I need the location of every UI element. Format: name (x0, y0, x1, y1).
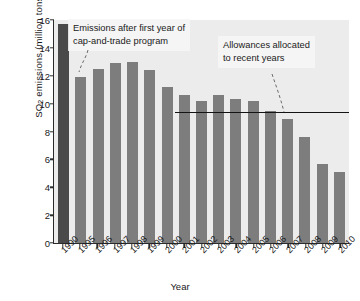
x-axis-title: Year (0, 281, 360, 292)
bar-cell-2000 (158, 20, 175, 243)
bar-2006 (265, 111, 276, 243)
y-tick-label-4: 4 (26, 182, 50, 193)
y-tick-mark-14 (50, 47, 55, 48)
y-tick-label-10: 10 (26, 98, 50, 109)
y-tick-label-14: 14 (26, 42, 50, 53)
bar-2009 (317, 164, 328, 243)
bar-cell-1998 (124, 20, 141, 243)
y-tick-mark-4 (50, 187, 55, 188)
y-tick-mark-6 (50, 159, 55, 160)
y-tick-label-0: 0 (26, 238, 50, 249)
y-tick-mark-16 (50, 19, 55, 20)
y-tick-mark-0 (50, 242, 55, 243)
bar-cell-2010 (331, 20, 348, 243)
y-tick-label-2: 2 (26, 210, 50, 221)
bar-cell-2009 (314, 20, 331, 243)
y-tick-mark-10 (50, 103, 55, 104)
bar-cell-1990 (55, 20, 72, 243)
bar-1995 (75, 77, 86, 243)
bar-1990 (58, 24, 69, 243)
bar-cell-1999 (141, 20, 158, 243)
y-tick-mark-8 (50, 131, 55, 132)
bar-2004 (230, 99, 241, 243)
so2-emissions-bar-chart: SO2 emissions (million tons) Year 024681… (0, 0, 360, 301)
y-tick-label-6: 6 (26, 154, 50, 165)
bar-2001 (179, 95, 190, 243)
bar-2003 (213, 95, 224, 243)
bar-1997 (110, 63, 121, 243)
bar-2002 (196, 101, 207, 243)
y-tick-label-8: 8 (26, 126, 50, 137)
bar-cell-1995 (72, 20, 89, 243)
bar-cell-2002 (193, 20, 210, 243)
annotation-cap-and-trade: Emissions after first year of cap-and-tr… (68, 19, 190, 51)
y-tick-mark-2 (50, 214, 55, 215)
bar-cell-1996 (89, 20, 106, 243)
bar-2008 (299, 137, 310, 243)
bar-2005 (248, 101, 259, 243)
annotation-allowances: Allowances allocated to recent years (218, 36, 315, 68)
bar-cell-1997 (107, 20, 124, 243)
bar-1998 (127, 62, 138, 243)
bar-cell-2001 (176, 20, 193, 243)
allowances-reference-line (175, 112, 349, 114)
bar-2000 (162, 87, 173, 243)
y-tick-mark-12 (50, 75, 55, 76)
bar-2010 (334, 172, 345, 243)
y-tick-label-12: 12 (26, 70, 50, 81)
bar-2007 (282, 119, 293, 243)
y-tick-label-16: 16 (26, 15, 50, 26)
bar-1999 (144, 70, 155, 243)
bar-1996 (93, 69, 104, 243)
